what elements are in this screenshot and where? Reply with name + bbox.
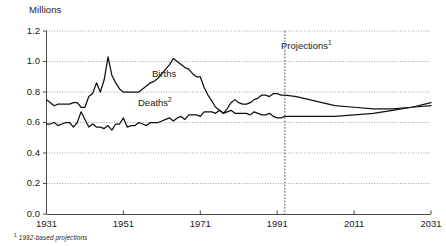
y-tick-label: 1.2 (14, 25, 40, 36)
series-label-births: Births (152, 68, 176, 79)
series-lines (47, 57, 432, 130)
x-tick-label: 1971 (180, 218, 220, 229)
x-tick-label: 2031 (411, 218, 446, 229)
y-tick-label: 0.4 (14, 147, 40, 158)
x-tick-label: 1991 (257, 218, 297, 229)
series-label-deaths: Deaths2 (138, 96, 172, 108)
x-tick-label: 1931 (27, 218, 67, 229)
projections-annotation-label: Projections1 (281, 39, 332, 51)
x-tick-label: 1951 (103, 218, 143, 229)
y-tick-label: 0.8 (14, 86, 40, 97)
x-tick-marks (47, 211, 432, 215)
y-tick-label: 0.2 (14, 177, 40, 188)
y-tick-label: 1.0 (14, 55, 40, 66)
y-tick-label: 0.6 (14, 116, 40, 127)
x-tick-label: 2011 (334, 218, 374, 229)
y-tick-label: 0.0 (14, 208, 40, 219)
gridlines (47, 31, 432, 184)
footnote: 1 1992-based projections (14, 232, 87, 241)
y-tick-marks (43, 31, 47, 214)
